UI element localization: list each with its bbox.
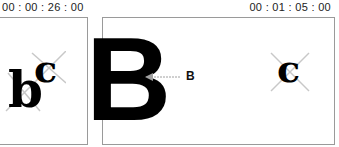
timecode-left: 00 : 00 : 26 : 00 [2,1,84,13]
frame-left: b c [0,17,88,145]
glyph-c: c [277,50,300,88]
glyph-c: c [34,50,57,88]
timecode-right: 00 : 01 : 05 : 00 [249,1,331,13]
arrow-left-icon [145,72,183,82]
callout-label: B [186,69,195,83]
